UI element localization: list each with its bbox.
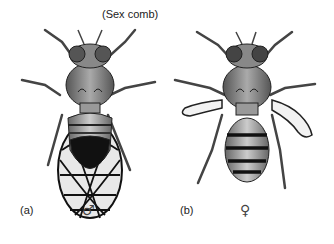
male-fly bbox=[22, 30, 155, 218]
panel-b-label: (b) bbox=[180, 204, 193, 216]
female-fly bbox=[175, 32, 315, 188]
female-symbol: ♀ bbox=[240, 202, 250, 218]
panel-a-label: (a) bbox=[20, 204, 33, 216]
fly-illustration bbox=[0, 0, 334, 244]
male-symbol: ♂ bbox=[82, 202, 95, 218]
sex-comb-annotation: (Sex comb) bbox=[102, 8, 158, 20]
